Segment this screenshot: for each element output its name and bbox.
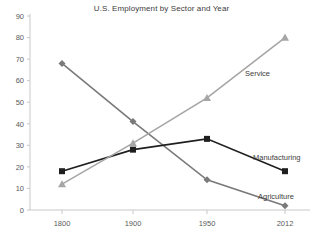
series-label-service: Service xyxy=(245,69,270,78)
y-axis-tick-label: 80 xyxy=(16,33,24,42)
data-point-marker xyxy=(282,168,288,174)
x-axis-tick-label: 1800 xyxy=(54,219,71,228)
line-chart-plot: 0102030405060708090 1800190019502012 Ser… xyxy=(0,0,323,241)
y-axis-tick-label: 50 xyxy=(16,98,24,107)
y-axis-tick-label: 20 xyxy=(16,163,24,172)
y-axis-tick-label: 10 xyxy=(16,184,24,193)
series-label-manufacturing: Manufacturing xyxy=(253,153,301,162)
data-point-marker xyxy=(204,136,210,142)
y-axis-tick-label: 70 xyxy=(16,55,24,64)
y-axis-tick-label: 40 xyxy=(16,120,24,129)
x-axis-tick-label: 1900 xyxy=(125,219,142,228)
data-point-marker xyxy=(282,202,289,209)
y-axis-tick-label: 0 xyxy=(20,206,24,215)
series-line-agriculture xyxy=(62,63,285,205)
data-point-marker xyxy=(130,147,136,153)
y-axis: 0102030405060708090 xyxy=(16,12,30,215)
x-axis-tick-label: 1950 xyxy=(199,219,216,228)
series-layer xyxy=(58,34,289,210)
x-axis-tick-label: 2012 xyxy=(277,219,294,228)
y-axis-tick-label: 30 xyxy=(16,141,24,150)
data-point-marker xyxy=(129,139,137,146)
y-axis-tick-label: 90 xyxy=(16,12,24,21)
data-point-marker xyxy=(59,168,65,174)
series-line-service xyxy=(62,38,285,185)
x-axis: 1800190019502012 xyxy=(30,210,310,228)
y-axis-tick-label: 60 xyxy=(16,76,24,85)
series-labels-layer: ServiceManufacturingAgriculture xyxy=(245,69,301,201)
series-label-agriculture: Agriculture xyxy=(258,192,294,201)
data-point-marker xyxy=(281,34,289,41)
data-point-marker xyxy=(58,180,66,187)
series-line-manufacturing xyxy=(62,139,285,171)
chart-container: U.S. Employment by Sector and Year 01020… xyxy=(0,0,323,241)
